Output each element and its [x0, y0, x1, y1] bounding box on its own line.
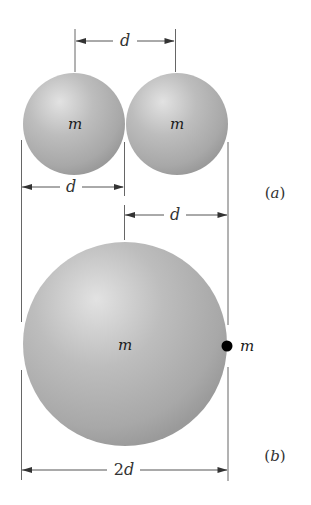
- dimension-left-diameter: d: [22, 177, 124, 196]
- dimension-right-diameter: d: [125, 205, 228, 224]
- gravitation-figure: d m m d: [0, 0, 311, 505]
- arrow-right-icon: [218, 212, 228, 218]
- mass-label: m: [68, 115, 82, 133]
- dimension-label: d: [170, 205, 180, 224]
- mass-label: m: [240, 337, 254, 355]
- point-mass-dot: [222, 341, 233, 352]
- dimension-center-to-center: d: [76, 31, 175, 50]
- arrow-left-icon: [125, 212, 135, 218]
- arrow-left-icon: [22, 467, 32, 473]
- dimension-label: d: [66, 177, 76, 196]
- arrow-right-icon: [218, 467, 228, 473]
- arrow-right-icon: [165, 38, 175, 44]
- arrow-left-icon: [22, 184, 32, 190]
- part-b: m m 2d (b): [22, 242, 286, 479]
- sphere-left: m: [23, 73, 125, 175]
- dimension-label: 2d: [114, 460, 134, 479]
- arrow-right-icon: [114, 184, 124, 190]
- part-a: d m m d: [22, 29, 285, 240]
- part-a-label: (a): [265, 184, 286, 202]
- sphere-right: m: [126, 73, 228, 175]
- dimension-label: d: [120, 31, 130, 50]
- arrow-left-icon: [76, 38, 86, 44]
- sphere-large: m: [23, 242, 227, 446]
- dimension-large-diameter: 2d: [22, 460, 228, 479]
- part-b-label: (b): [264, 447, 285, 465]
- mass-label: m: [118, 336, 132, 354]
- mass-label: m: [170, 115, 184, 133]
